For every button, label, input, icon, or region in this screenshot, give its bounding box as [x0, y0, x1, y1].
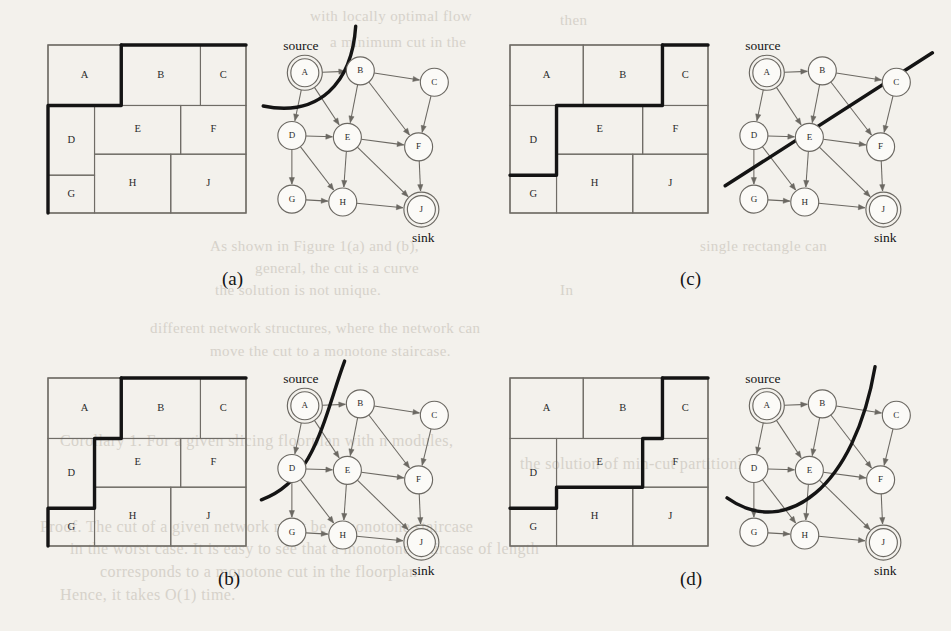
graph-edge-arrowhead-D-E: [326, 134, 333, 139]
graph-nodes: ABCDEFGHJ: [278, 55, 448, 227]
graph-edge-arrowhead-A-B: [339, 402, 346, 407]
graph-edge-H-J: [357, 536, 403, 540]
graph-node-label-E: E: [807, 465, 813, 475]
graph-edge-B-F: [369, 82, 410, 135]
graph-edge-D-H: [762, 480, 795, 523]
graph-nodes: ABCDEFGHJ: [740, 55, 910, 227]
floorplan-cell-label-F: F: [672, 123, 678, 134]
panel-d-caption: (d): [680, 568, 702, 590]
sink-label: sink: [412, 230, 435, 245]
bleed-text-line: with locally optimal flow: [310, 8, 472, 25]
graph-edge-arrowhead-B-C: [413, 409, 420, 414]
floorplan-outline: [48, 378, 246, 546]
graph-edge-arrowhead-D-G: [289, 511, 294, 517]
floorplan-cell-label-H: H: [591, 177, 599, 188]
graph-node-label-H: H: [802, 197, 809, 207]
floorplan-outline: [510, 378, 708, 546]
floorplan-cell-label-B: B: [157, 402, 164, 413]
graph-edge-arrowhead-A-E: [333, 118, 339, 125]
floorplan-cell-label-J: J: [668, 510, 672, 521]
graph-edge-arrowhead-A-B: [801, 402, 808, 407]
floorplan-cell-label-H: H: [591, 510, 599, 521]
graph-edge-arrowhead-D-H: [790, 516, 796, 523]
graph-node-label-G: G: [289, 527, 296, 537]
graph-edge-arrowhead-A-D: [756, 114, 761, 121]
graph-edge-arrowhead-A-E: [795, 118, 801, 125]
graph-node-label-G: G: [289, 194, 296, 204]
floorplan-cell-label-H: H: [129, 510, 137, 521]
bleed-text-line: In: [560, 282, 573, 299]
floorplan-cell-label-A: A: [543, 402, 551, 413]
floorplan-outline: [48, 45, 246, 213]
graph-edge-arrowhead-F-J: [418, 517, 423, 524]
panel-a-caption: (a): [222, 268, 243, 290]
graph-edge-arrowhead-H-J: [858, 538, 865, 543]
graph-node-label-F: F: [416, 474, 421, 484]
graph-edge-arrowhead-A-D: [294, 114, 299, 121]
graph-edge-arrowhead-B-F: [865, 461, 871, 468]
graph-edge-B-F: [369, 415, 410, 468]
floorplan: ABCDEFGHJ: [48, 378, 246, 546]
floorplan-cell-label-C: C: [220, 69, 227, 80]
graph-edge-H-J: [357, 203, 403, 207]
panel-c: ABCDEFGHJABCDEFGHJsourcesink: [492, 35, 942, 280]
graph-node-label-D: D: [751, 130, 758, 140]
floorplan-cell-label-D: D: [529, 467, 537, 478]
floorplan-cell-label-C: C: [682, 69, 689, 80]
graph-edge-arrowhead-D-E: [788, 467, 795, 472]
graph-edge-arrowhead-D-E: [788, 134, 795, 139]
graph-node-label-B: B: [819, 65, 825, 75]
floorplan-cell-label-J: J: [206, 510, 210, 521]
panel-b: ABCDEFGHJABCDEFGHJsourcesink: [30, 368, 480, 613]
panel-b-canvas: ABCDEFGHJABCDEFGHJsourcesink: [30, 368, 480, 613]
floorplan-cell-label-J: J: [206, 177, 210, 188]
graph-node-label-F: F: [878, 141, 883, 151]
floorplan-cell-label-E: E: [134, 456, 140, 467]
floorplan-cell-label-C: C: [220, 402, 227, 413]
graph-edge-arrowhead-B-E: [349, 116, 354, 123]
floorplan-cell-label-A: A: [81, 402, 89, 413]
floorplan-cell-label-F: F: [210, 456, 216, 467]
graph-edge-D-H: [300, 480, 333, 523]
graph-edge-arrowhead-A-D: [294, 447, 299, 454]
floorplan-cell-label-C: C: [682, 402, 689, 413]
graph-node-label-F: F: [416, 141, 421, 151]
graph-edge-arrowhead-G-H: [321, 198, 328, 203]
floorplan-cell-label-A: A: [81, 69, 89, 80]
graph-node-label-D: D: [289, 463, 296, 473]
graph-edge-arrowhead-B-C: [875, 409, 882, 414]
graph-edge-arrowhead-D-G: [751, 178, 756, 185]
graph-edge-arrowhead-B-F: [865, 128, 871, 135]
bleed-text-line: different network structures, where the …: [150, 320, 480, 337]
floorplan-cell-label-D: D: [529, 134, 537, 145]
graph-node-label-J: J: [420, 537, 424, 547]
graph-edge-arrowhead-D-G: [289, 178, 294, 185]
graph-edge-arrowhead-G-H: [783, 531, 790, 536]
floorplan-cell-label-F: F: [210, 123, 216, 134]
floorplan-cell-label-G: G: [67, 188, 75, 199]
graph-edge-B-C: [836, 73, 881, 80]
graph-node-label-C: C: [893, 410, 899, 420]
floorplan: ABCDEFGHJ: [510, 45, 708, 213]
graph-node-label-E: E: [807, 132, 813, 142]
graph-node-label-J: J: [882, 204, 886, 214]
graph-edge-arrowhead-C-F: [883, 125, 888, 132]
floorplan-cell-label-B: B: [157, 69, 164, 80]
floorplan-cell-label-H: H: [129, 177, 137, 188]
graph-node-label-A: A: [764, 400, 771, 410]
graph-edge-arrowhead-B-E: [811, 449, 816, 456]
graph-nodes: ABCDEFGHJ: [278, 388, 448, 560]
panel-a: ABCDEFGHJABCDEFGHJsourcesink: [30, 35, 480, 280]
figure-page: { "figure": { "panels": [ { "id": "a", "…: [0, 0, 951, 631]
floorplan-cell-label-B: B: [619, 402, 626, 413]
bleed-text-line: then: [560, 12, 587, 29]
graph-edge-E-J: [819, 480, 870, 530]
graph-edge-arrowhead-E-H: [804, 513, 809, 520]
graph-edge-H-J: [819, 203, 865, 207]
graph-edge-arrowhead-F-J: [880, 517, 885, 524]
graph-edge-arrowhead-E-H: [804, 180, 809, 187]
graph-edge-arrowhead-B-E: [811, 116, 816, 123]
graph-edge-arrowhead-E-H: [342, 180, 347, 187]
graph-node-label-D: D: [289, 130, 296, 140]
graph-edge-B-C: [836, 406, 881, 413]
